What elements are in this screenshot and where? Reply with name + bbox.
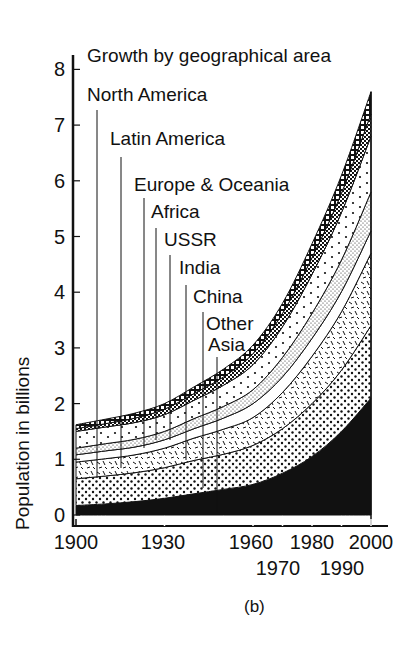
label-africa: Africa [151,201,200,222]
y-tick-label: 5 [54,226,65,248]
chart-title: Growth by geographical area [87,45,331,66]
label-asia: Asia [208,334,245,355]
label-north-america: North America [87,84,208,105]
stacked-areas [76,92,371,526]
label-ussr: USSR [164,229,217,250]
y-tick-label: 4 [54,281,65,303]
population-chart: 012345678 1900193019601980200019701990 G… [0,0,410,645]
label-europe-oceania: Europe & Oceania [134,174,290,195]
label-other: Other [206,313,254,334]
figure-caption: (b) [244,597,265,616]
y-tick-label: 2 [54,393,65,415]
x-tick-label: 1960 [229,531,274,553]
region-labels: North America Latin America Europe & Oce… [87,84,290,355]
y-axis-label: Population in billions [12,357,33,530]
label-india: India [179,257,221,278]
x-tick-label: 1930 [141,531,186,553]
x-tick-label: 2000 [349,531,394,553]
x-tick-label: 1980 [290,531,335,553]
y-tick-label: 7 [54,114,65,136]
y-tick-label: 6 [54,170,65,192]
label-china: China [193,286,243,307]
y-tick-label: 1 [54,448,65,470]
label-latin-america: Latin America [110,128,226,149]
x-tick-label: 1900 [54,531,99,553]
y-tick-label: 3 [54,337,65,359]
y-tick-label: 0 [54,504,65,526]
x-tick-label: 1970 [256,557,301,579]
y-tick-label: 8 [54,58,65,80]
x-ticks: 1900193019601980200019701990 [54,519,394,579]
x-tick-label: 1990 [320,557,365,579]
